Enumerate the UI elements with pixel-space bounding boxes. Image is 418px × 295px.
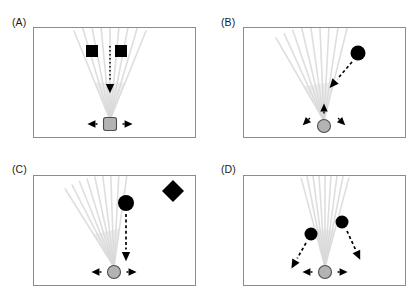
panel-d: (D): [0, 0, 418, 295]
action-arrow-left: [302, 268, 312, 275]
motion-arrow-head: [288, 259, 300, 271]
action-arrow-head: [302, 268, 310, 275]
motion-arrow: [347, 231, 364, 261]
sensor-cone-shade: [315, 230, 335, 267]
agent-circle: [319, 266, 332, 279]
action-arrow-head: [340, 268, 348, 275]
obstacle-circle: [305, 228, 318, 241]
motion-arrow: [288, 243, 306, 271]
panel-svg-d: [244, 176, 405, 285]
motion-arrow-shaft: [347, 231, 355, 249]
motion-arrow-shaft: [297, 243, 306, 258]
panel-label-d: (D): [221, 163, 236, 175]
obstacle-circle: [336, 216, 349, 229]
motion-arrow-head: [353, 250, 364, 262]
figure-canvas: (A)(B)(C)(D): [0, 0, 418, 295]
panel-scene-d: [244, 176, 405, 285]
action-arrow-right: [338, 268, 348, 275]
